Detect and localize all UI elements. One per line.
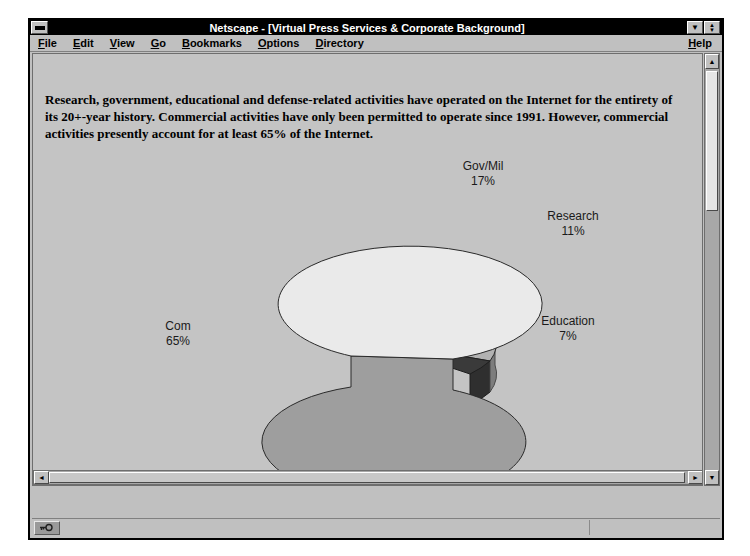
netscape-window: Netscape - [Virtual Press Services & Cor… [28,18,724,540]
menu-item-directory[interactable]: Directory [307,35,371,51]
pie-graphic: Gov/Mil 17% Research 11% Education 7% Co… [33,174,703,484]
horizontal-scrollbar[interactable]: ◄ ► [33,470,703,485]
pie-label-research-name: Research [528,209,618,224]
menu-item-view[interactable]: View [102,35,143,51]
menu-item-help[interactable]: Help [680,35,720,51]
pie-label-com-name: Com [138,319,218,334]
restore-icon: ▲▼ [709,23,715,33]
triangle-down-icon: ▼ [709,474,716,481]
triangle-up-icon: ▲ [709,58,716,65]
pie-label-com-value: 65% [138,334,218,349]
vertical-scroll-track[interactable] [705,69,719,470]
vertical-scroll-thumb[interactable] [706,71,718,211]
pie-label-govmil-value: 17% [438,174,528,189]
restore-button[interactable]: ▲▼ [704,21,720,34]
pie-slice-com [278,246,542,359]
page-paragraph: Research, government, educational and de… [45,91,688,142]
pie-label-govmil-name: Gov/Mil [438,159,528,174]
minimize-button[interactable]: ▼ [687,21,703,34]
menu-bar: File Edit View Go Bookmarks Options Dire… [30,35,722,52]
system-menu-icon[interactable] [31,21,48,34]
scroll-down-button[interactable]: ▼ [705,470,719,485]
title-bar: Netscape - [Virtual Press Services & Cor… [30,20,722,35]
menu-item-file[interactable]: File [30,35,65,51]
key-glyph [38,523,56,532]
scroll-right-button[interactable]: ► [688,471,703,484]
scroll-left-button[interactable]: ◄ [34,471,49,484]
window-title: Netscape - [Virtual Press Services & Cor… [48,22,722,34]
horizontal-scroll-thumb[interactable] [49,472,685,483]
menu-item-options[interactable]: Options [250,35,308,51]
status-bar [32,518,720,536]
pie-label-education-value: 7% [518,329,618,344]
page-content: Research, government, educational and de… [32,53,703,486]
pie-label-research-value: 11% [528,224,618,239]
menu-item-edit[interactable]: Edit [65,35,102,51]
pie-label-education: Education 7% [518,314,618,344]
security-key-icon[interactable] [34,521,60,535]
triangle-left-icon: ◄ [38,474,45,481]
pie-chart: Gov/Mil 17% Research 11% Education 7% Co… [33,174,703,484]
pie-label-education-name: Education [518,314,618,329]
triangle-right-icon: ► [692,474,699,481]
menu-item-bookmarks[interactable]: Bookmarks [174,35,250,51]
status-divider [589,520,590,535]
menu-item-go[interactable]: Go [143,35,174,51]
vertical-scrollbar[interactable]: ▲ ▼ [704,53,720,486]
scroll-up-button[interactable]: ▲ [705,54,719,69]
client-area: Research, government, educational and de… [32,53,720,503]
pie-label-com: Com 65% [138,319,218,349]
pie-label-research: Research 11% [528,209,618,239]
window-controls: ▼ ▲▼ [687,21,721,34]
chevron-down-icon: ▼ [691,24,699,32]
pie-label-govmil: Gov/Mil 17% [438,159,528,189]
